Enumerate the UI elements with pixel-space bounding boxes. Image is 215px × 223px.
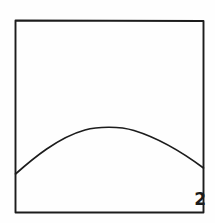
panel-border	[16, 21, 204, 213]
arch-curve	[16, 127, 204, 174]
figure-number-label: 2	[194, 191, 206, 208]
figure-drawing-canvas	[0, 0, 215, 223]
figure-panel: 2	[0, 0, 215, 223]
